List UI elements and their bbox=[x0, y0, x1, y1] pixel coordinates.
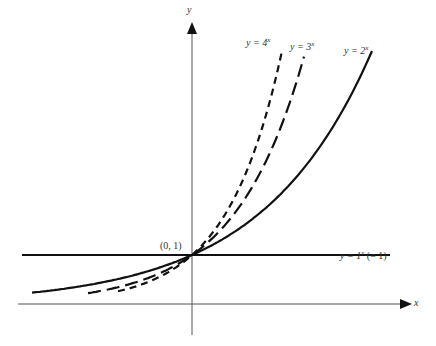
y-axis-label: y bbox=[187, 4, 191, 15]
label-4-pow-x: y = 4x bbox=[246, 36, 270, 48]
exponential-plot bbox=[0, 0, 436, 346]
point-label: (0, 1) bbox=[160, 240, 182, 251]
label-3-pow-x: y = 3x bbox=[290, 40, 314, 52]
curve-2-pow-x bbox=[32, 51, 372, 293]
label-2-pow-x: y = 2x bbox=[344, 44, 368, 56]
x-axis-label: x bbox=[414, 297, 418, 308]
y-axis-arrow-icon bbox=[187, 22, 197, 34]
label-1-pow-x: y = 1x (= 1) bbox=[340, 249, 387, 261]
x-axis-arrow-icon bbox=[400, 299, 412, 309]
